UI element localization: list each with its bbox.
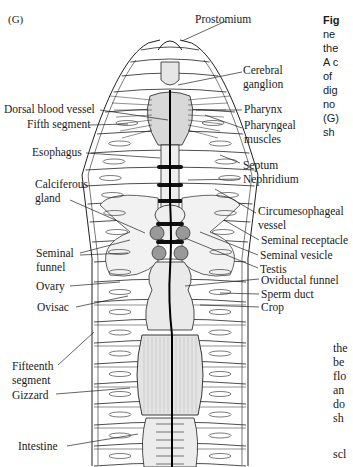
label-oviductal-funnel: Oviductal funnel	[261, 274, 339, 287]
testis-shape	[174, 246, 188, 260]
label-pharynx: Pharynx	[244, 103, 282, 116]
nephridium-loop	[106, 230, 128, 235]
label-seminal-funnel-1: Seminal	[36, 247, 74, 260]
label-circumesophageal-vessel-2: vessel	[258, 219, 286, 232]
leader-line	[58, 332, 94, 365]
body-text-fragment-line: sh	[333, 411, 353, 425]
body-text-fragment-line: the	[333, 341, 353, 355]
leader-line	[178, 72, 242, 85]
nephridium-loop	[109, 310, 131, 315]
label-ovisac: Ovisac	[37, 301, 69, 314]
leader-line	[76, 296, 128, 307]
nephridium-loop	[219, 176, 241, 181]
label-cerebral-ganglion-2: ganglion	[243, 78, 283, 91]
label-seminal-vesicle: Seminal vesicle	[260, 249, 333, 262]
label-cerebral-ganglion-1: Cerebral	[243, 64, 283, 77]
caption-fragment-line: ne	[323, 27, 353, 41]
nephridium-loop	[209, 454, 231, 459]
nephridium-loop	[209, 290, 231, 295]
caption-fragment-line: A c	[323, 55, 353, 69]
label-fifteenth-segment-2: segment	[12, 374, 50, 387]
label-crop: Crop	[261, 301, 284, 314]
leader-line	[70, 282, 120, 286]
nephridium-loop	[109, 372, 131, 377]
caption-fragment-line: no	[323, 97, 353, 111]
nephridium-loop	[109, 141, 131, 146]
nephridium-loop	[109, 412, 131, 417]
nephridium-loop	[215, 159, 237, 164]
label-intestine: Intestine	[18, 440, 58, 453]
label-nephridium: Nephridium	[243, 173, 299, 186]
leader-line	[188, 179, 240, 180]
label-fifth-segment: Fifth segment	[27, 118, 91, 131]
nephridium-loop	[209, 372, 231, 377]
prostomium-shape	[158, 41, 182, 50]
label-sperm-duct: Sperm duct	[261, 288, 314, 301]
testis-shape	[150, 226, 164, 240]
pharyngeal-muscle-line	[110, 96, 152, 100]
nephridium-loop	[209, 351, 231, 356]
nephridium-loop	[109, 330, 131, 335]
pharyngeal-muscle-line	[122, 130, 152, 138]
nephridium-loop	[99, 176, 121, 181]
nephridium-loop	[109, 290, 131, 295]
leader-line	[200, 305, 259, 307]
label-prostomium: Prostomium	[195, 13, 251, 26]
cerebral-ganglion-shape	[161, 62, 179, 85]
nephridium-loop	[109, 454, 131, 459]
nephridium-loop	[209, 412, 231, 417]
label-septum: Septum	[243, 159, 278, 172]
label-calciferous-gland-1: Calciferous	[35, 178, 88, 191]
seminal-vesicle-right	[182, 195, 240, 276]
nephridium-loop	[101, 193, 123, 198]
nephridium-loop	[209, 392, 231, 397]
pharyngeal-muscle-line	[188, 96, 230, 100]
pharyngeal-muscle-line	[188, 103, 228, 105]
nephridium-loop	[209, 141, 231, 146]
intestine-shape	[142, 418, 197, 467]
caption-fragment-line: dig	[323, 83, 353, 97]
body-text-fragment-line: flo	[333, 369, 353, 383]
nephridium-loop	[209, 330, 231, 335]
caption-fragment-line: the	[323, 41, 353, 55]
label-pharyngeal-muscles-2: muscles	[244, 133, 281, 146]
nephridium-loop	[209, 310, 231, 315]
label-circumesophageal-vessel-1: Circumesophageal	[258, 205, 344, 218]
nephridium-loop	[103, 159, 125, 164]
nephridium-loop	[109, 351, 131, 356]
label-fifteenth-segment-1: Fifteenth	[12, 360, 54, 373]
body-text-fragment-line: an	[333, 383, 353, 397]
label-pharyngeal-muscles-1: Pharyngeal	[244, 119, 296, 132]
leader-line	[56, 388, 130, 394]
testis-shape	[152, 246, 166, 260]
pharyngeal-muscle-line	[188, 125, 220, 131]
leader-line	[86, 153, 160, 158]
pharyngeal-muscle-line	[112, 103, 152, 105]
pharyngeal-muscle-line	[188, 130, 218, 138]
nephridium-loop	[212, 230, 234, 235]
label-seminal-receptacle: Seminal receptacle	[261, 234, 348, 247]
gizzard-shape	[137, 335, 203, 415]
label-seminal-funnel-2: funnel	[36, 261, 65, 274]
nephridium-loop	[209, 433, 231, 438]
label-dorsal-blood-vessel: Dorsal blood vessel	[4, 103, 95, 116]
caption-fragment-line: of	[323, 69, 353, 83]
label-esophagus: Esophagus	[32, 146, 82, 159]
label-gizzard: Gizzard	[12, 389, 48, 402]
panel-label: (G)	[8, 13, 23, 25]
leader-line	[89, 124, 128, 125]
body-text-fragment-line: scl	[333, 447, 353, 461]
seminal-vesicle-left	[100, 195, 158, 276]
caption-fragment-line: (G)	[323, 111, 353, 125]
caption-fragment-line: Fig	[323, 13, 353, 27]
pharyngeal-muscle-line	[120, 125, 152, 131]
label-calciferous-gland-2: gland	[35, 192, 61, 205]
septum-line	[131, 59, 210, 62]
body-text-fragment-line: do	[333, 397, 353, 411]
nephridium-loop	[109, 392, 131, 397]
caption-fragment-line: sh	[323, 125, 353, 139]
label-ovary: Ovary	[36, 280, 65, 293]
testis-shape	[176, 226, 190, 240]
leader-line	[220, 293, 259, 294]
